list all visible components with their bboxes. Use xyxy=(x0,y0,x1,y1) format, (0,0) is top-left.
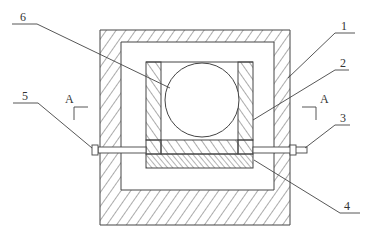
svg-text:A: A xyxy=(320,92,329,106)
svg-text:A: A xyxy=(65,92,74,106)
base-block-part-4 xyxy=(146,140,253,168)
svg-text:6: 6 xyxy=(20,10,26,24)
svg-text:2: 2 xyxy=(340,56,346,70)
svg-text:1: 1 xyxy=(341,19,347,33)
technical-diagram: A A 6 5 1 2 3 4 xyxy=(0,0,373,236)
leader-6: 6 xyxy=(12,10,170,88)
ball-part-6 xyxy=(165,63,239,137)
leader-3: 3 xyxy=(305,111,350,148)
section-marker-right: A xyxy=(302,92,329,120)
svg-text:3: 3 xyxy=(340,111,346,125)
svg-text:5: 5 xyxy=(22,89,28,103)
left-nut-part-5 xyxy=(92,145,98,155)
leader-5: 5 xyxy=(13,89,92,148)
right-nut-part-3 xyxy=(290,145,296,155)
section-marker-left: A xyxy=(65,92,88,120)
svg-text:4: 4 xyxy=(344,199,350,213)
